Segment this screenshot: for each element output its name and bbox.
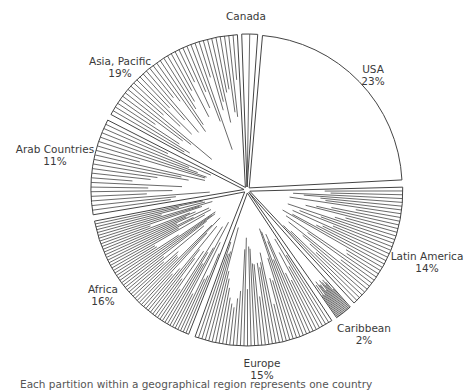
slice-label-name: Caribbean — [337, 322, 391, 334]
slice-label-name: Arab Countries — [16, 143, 94, 155]
slice-label-percent: 11% — [16, 155, 94, 167]
slice-label: Arab Countries11% — [16, 143, 94, 167]
slice-label-name: Europe — [244, 357, 281, 369]
slice-label-percent: 19% — [89, 67, 151, 79]
slice-label: USA23% — [361, 63, 384, 87]
slice-label: Asia, Pacific19% — [89, 55, 151, 79]
slice-label-percent: 2% — [337, 334, 391, 346]
slice-label-percent: 14% — [391, 262, 464, 274]
slice-usa — [249, 35, 402, 187]
slice-label-name: Canada — [226, 10, 266, 22]
slice-label-percent: 16% — [88, 295, 118, 307]
pie-chart — [0, 0, 476, 390]
chart-caption: Each partition within a geographical reg… — [20, 378, 372, 390]
slice-label: Caribbean2% — [337, 322, 391, 346]
slice-label: Latin America14% — [391, 250, 464, 274]
slice-label-name: Latin America — [391, 250, 464, 262]
slice-label: Canada — [226, 10, 266, 22]
slice-label: Africa16% — [88, 283, 118, 307]
slice-label-name: USA — [361, 63, 384, 75]
slice-label-name: Asia, Pacific — [89, 55, 151, 67]
slice-label-name: Africa — [88, 283, 118, 295]
slice-label-percent: 23% — [361, 75, 384, 87]
